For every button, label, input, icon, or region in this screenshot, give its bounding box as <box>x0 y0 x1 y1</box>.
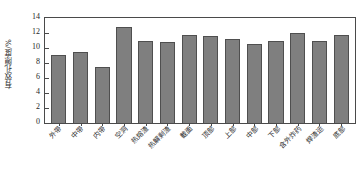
bar <box>51 55 66 123</box>
x-label-slot: 顶部 <box>200 124 222 173</box>
bar <box>182 35 197 124</box>
y-axis-tick-mark <box>45 33 49 34</box>
x-label-slot: 截面 <box>178 124 200 173</box>
bar-chart: 有效孔隙度/% 02468101214 外带中带内带空洞热熔渣热解剩渣截面顶部上… <box>0 0 363 173</box>
y-axis-tick-mark <box>45 63 49 64</box>
bar <box>160 42 175 123</box>
x-label-slot: 外带 <box>47 124 69 173</box>
bar-slot <box>309 18 331 123</box>
x-axis-tick-label: 外带 <box>48 126 63 141</box>
x-label-slot: 焊渣运 <box>309 124 331 173</box>
bar <box>334 35 349 123</box>
x-axis-tick-label: 空洞 <box>114 126 129 141</box>
bars-layer <box>45 18 355 123</box>
bar <box>290 33 305 123</box>
bar-slot <box>287 18 309 123</box>
x-label-slot: 中带 <box>69 124 91 173</box>
bar-slot <box>330 18 352 123</box>
bar <box>247 44 262 123</box>
x-label-slot: 空洞 <box>113 124 135 173</box>
y-axis-tick-label: 6 <box>18 73 40 81</box>
y-axis-tick-label: 4 <box>18 88 40 96</box>
plot-inner <box>45 18 355 123</box>
y-axis-tick-label: 14 <box>18 13 40 21</box>
x-label-slot: 含外炸药 <box>287 124 309 173</box>
bar-slot <box>157 18 179 123</box>
bar <box>225 39 240 123</box>
y-axis-tick-mark <box>45 93 49 94</box>
x-label-slot: 内带 <box>91 124 113 173</box>
x-axis-tick-label: 底部 <box>332 126 347 141</box>
bar <box>116 27 131 123</box>
bar-slot <box>243 18 265 123</box>
y-axis-title: 有效孔隙度/% <box>2 0 16 128</box>
bar <box>268 41 283 123</box>
bar-slot <box>178 18 200 123</box>
bar-slot <box>222 18 244 123</box>
x-axis-labels: 外带中带内带空洞热熔渣热解剩渣截面顶部上部中部下部含外炸药焊渣运底部 <box>44 124 356 173</box>
x-label-slot: 上部 <box>222 124 244 173</box>
bar-slot <box>91 18 113 123</box>
bar-slot <box>200 18 222 123</box>
y-axis-tick-mark <box>45 78 49 79</box>
y-axis-tick-label: 2 <box>18 103 40 111</box>
x-axis-tick-label: 截面 <box>179 126 194 141</box>
bar <box>73 52 88 123</box>
bar <box>138 41 153 123</box>
y-axis-tick-label: 12 <box>18 28 40 36</box>
bar <box>203 36 218 123</box>
bar-slot <box>70 18 92 123</box>
x-axis-tick-label: 顶部 <box>201 126 216 141</box>
x-label-slot: 中部 <box>244 124 266 173</box>
y-axis-tick-label: 10 <box>18 43 40 51</box>
bar <box>312 41 327 124</box>
y-axis-tick-label: 8 <box>18 58 40 66</box>
x-axis-tick-label: 内带 <box>92 126 107 141</box>
bar-slot <box>113 18 135 123</box>
y-axis-tick-label: 0 <box>18 118 40 126</box>
x-axis-tick-label: 下部 <box>267 126 282 141</box>
bar <box>95 67 110 123</box>
bar-slot <box>265 18 287 123</box>
y-axis-title-text: 有效孔隙度/% <box>5 39 13 89</box>
x-label-slot: 热解剩渣 <box>156 124 178 173</box>
plot-area <box>44 17 356 124</box>
y-axis-tick-mark <box>45 48 49 49</box>
x-axis-tick-label: 中带 <box>70 126 85 141</box>
x-axis-tick-label: 上部 <box>223 126 238 141</box>
y-axis-tick-mark <box>45 108 49 109</box>
x-label-slot: 底部 <box>331 124 353 173</box>
bar-slot <box>135 18 157 123</box>
x-axis-tick-label: 中部 <box>245 126 260 141</box>
x-axis-tick-label: 焊渣运 <box>305 126 325 146</box>
bar-slot <box>48 18 70 123</box>
